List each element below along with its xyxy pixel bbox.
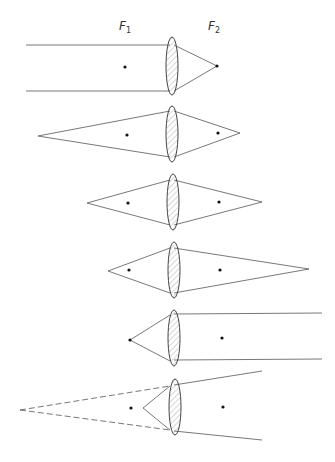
diagram-4 [108,248,309,293]
lens-2 [166,106,178,162]
f1-dot-5 [128,338,131,341]
f2-dot-6 [221,405,224,408]
f2-dot-5 [220,336,223,339]
diagram-1 [26,45,217,91]
lens-6 [169,379,181,435]
f2-dot-3 [217,200,220,203]
converging-lens-ray-diagrams: F1 F2 [0,0,335,462]
diagram-2 [38,111,240,157]
diagram-6 [20,371,262,440]
diagram-5 [130,313,322,361]
lens-3 [167,174,179,230]
f1-dot-4 [127,268,130,271]
f2-dot-2 [216,131,219,134]
f1-dot-3 [126,201,129,204]
f1-dot-6 [129,406,132,409]
f1-dot-1 [123,65,126,68]
f2-dot-4 [218,268,221,271]
lens-5 [168,310,180,366]
lens-1 [166,37,178,95]
f1-dot-2 [125,133,128,136]
lens-4 [168,242,180,298]
f2-dot-1 [215,64,218,67]
ray-diagrams-svg [0,0,335,462]
